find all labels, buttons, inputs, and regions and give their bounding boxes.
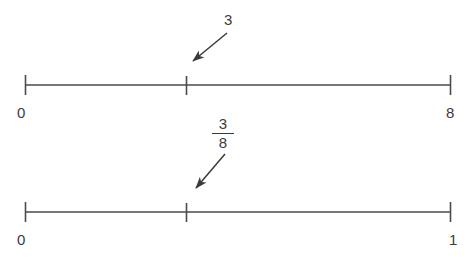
top-line-start-label: 0 <box>17 105 25 120</box>
bottom-annotation-fraction: 3 8 <box>212 116 234 151</box>
bottom-line-end-label: 1 <box>449 232 457 247</box>
top-number-line <box>25 75 451 95</box>
bottom-number-line <box>25 202 451 222</box>
number-line-drawing <box>0 0 472 263</box>
top-annotation-arrow <box>193 33 227 61</box>
fraction-numerator: 3 <box>212 116 234 132</box>
fraction-denominator: 8 <box>212 135 234 151</box>
arrow-to-three-eighths-icon <box>196 154 225 188</box>
bottom-annotation-arrow <box>196 154 225 188</box>
bottom-line-start-label: 0 <box>17 232 25 247</box>
arrow-to-three-icon <box>193 33 227 61</box>
top-line-end-label: 8 <box>446 105 454 120</box>
top-annotation-label: 3 <box>224 12 232 27</box>
number-line-figure: 0 8 3 3 8 0 1 <box>0 0 472 263</box>
